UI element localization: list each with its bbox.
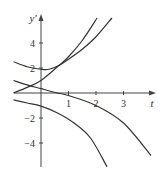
y-axis-arrow-icon (39, 14, 44, 21)
y-axis: 4 2 −2 −4 y' (24, 12, 43, 167)
y-tick-label-neg4: −4 (24, 138, 35, 149)
chart: 1 2 3 t 4 2 −2 −4 y' (0, 0, 162, 177)
x-tick-label-2: 2 (94, 98, 99, 109)
x-axis-label: t (150, 97, 154, 109)
curve-b-rising (14, 18, 98, 93)
curve-d-falling (14, 100, 108, 167)
x-axis-arrow-icon (149, 91, 156, 96)
x-tick-label-3: 3 (121, 98, 126, 109)
x-tick-label-1: 1 (66, 98, 71, 109)
x-axis: 1 2 3 t (14, 91, 156, 110)
y-tick-label-neg2: −2 (24, 113, 35, 124)
y-axis-label: y' (28, 12, 37, 24)
y-tick-label-4: 4 (30, 38, 35, 49)
